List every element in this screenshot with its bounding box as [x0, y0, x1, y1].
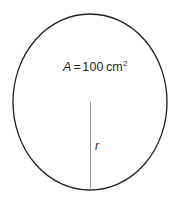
area-label: A=100cm2 [63, 61, 127, 74]
circle-area-diagram: A=100cm2 r [0, 0, 181, 206]
area-equals-sign: = [73, 60, 80, 74]
radius-label: r [95, 140, 99, 152]
area-value: 100 [82, 60, 103, 74]
area-unit: cm [106, 60, 123, 74]
diagram-canvas [0, 0, 181, 206]
area-unit-exponent: 2 [123, 59, 128, 68]
area-symbol: A [63, 60, 71, 74]
